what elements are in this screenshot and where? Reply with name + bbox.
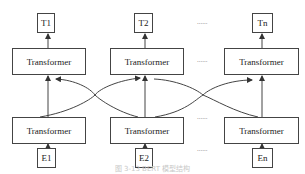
- transformer-top-3: Transformer: [224, 48, 299, 75]
- transformer-bottom-3: Transformer: [224, 117, 299, 144]
- output-t2-label: T2: [139, 18, 149, 28]
- figure-caption: 图 3-13 BERT 模型结构: [0, 163, 305, 173]
- ellipsis-inputs: ......: [197, 145, 208, 153]
- transformer-top-3-label: Transformer: [239, 57, 284, 67]
- output-t2: T2: [134, 13, 153, 33]
- ellipsis-top-layer: ......: [197, 56, 208, 64]
- transformer-top-2-label: Transformer: [125, 57, 170, 67]
- transformer-bottom-1: Transformer: [12, 117, 86, 144]
- ellipsis-bottom-layer: ......: [197, 113, 208, 121]
- input-e2-label: E2: [139, 153, 149, 163]
- input-en-label: En: [258, 153, 268, 163]
- transformer-bottom-3-label: Transformer: [239, 126, 284, 136]
- transformer-bottom-2-label: Transformer: [125, 126, 170, 136]
- curve-col3-to-col2: [154, 79, 258, 117]
- curve-col2-to-col1: [56, 79, 138, 117]
- ellipsis-outputs: ......: [197, 18, 208, 26]
- transformer-bottom-2: Transformer: [110, 117, 184, 144]
- transformer-top-1: Transformer: [12, 48, 86, 75]
- curve-col2-to-col3: [155, 80, 252, 117]
- curve-col1-to-col2: [40, 78, 140, 117]
- output-t1-label: T1: [41, 18, 51, 28]
- transformer-bottom-1-label: Transformer: [27, 126, 72, 136]
- output-t1: T1: [37, 13, 55, 33]
- transformer-top-1-label: Transformer: [27, 57, 72, 67]
- output-tn-label: Tn: [258, 18, 268, 28]
- transformer-top-2: Transformer: [110, 48, 184, 75]
- input-e1-label: E1: [42, 153, 52, 163]
- output-tn: Tn: [252, 13, 273, 33]
